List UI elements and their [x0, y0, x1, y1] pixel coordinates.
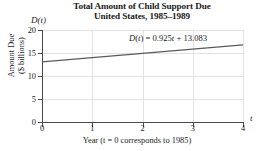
y-axis-tick-label: 5	[16, 95, 36, 104]
x-axis-tick-label: 1	[82, 124, 102, 133]
equation-slope: 0.925	[153, 33, 172, 43]
x-axis-tick-label: 3	[183, 124, 203, 133]
equation-variable-2: t	[172, 33, 174, 43]
equation-annotation: D(t) = 0.925t + 13.083	[129, 33, 207, 43]
equation-function: D	[129, 33, 135, 43]
x-axis-tick-label: 0	[32, 124, 52, 133]
y-axis-tick-label: 20	[16, 26, 36, 35]
x-axis-name-label: t	[250, 113, 253, 123]
x-axis-tick-label: 4	[233, 124, 253, 133]
y-axis-name-label: D(t)	[31, 15, 46, 25]
plot-area	[42, 30, 243, 122]
y-axis-tick-label: 15	[16, 49, 36, 58]
series-polyline	[42, 45, 243, 62]
x-axis-tick-label: 2	[133, 124, 153, 133]
y-axis-tick-label: 10	[16, 72, 36, 81]
chart-title-line-2: United States, 1985–1989	[33, 11, 251, 21]
chart-title: Total Amount of Child Support Due United…	[33, 1, 251, 22]
chart-title-line-1: Total Amount of Child Support Due	[33, 1, 251, 11]
chart-figure: Total Amount of Child Support Due United…	[0, 0, 263, 151]
equation-variable-1: t	[138, 33, 140, 43]
gridline-vertical	[243, 30, 244, 122]
equation-intercept: 13.083	[183, 33, 207, 43]
x-axis-title: Year (t = 0 corresponds to 1985)	[23, 136, 251, 145]
data-line-series	[42, 30, 243, 122]
